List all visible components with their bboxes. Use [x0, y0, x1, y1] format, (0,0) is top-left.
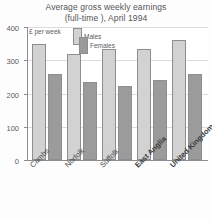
chart-title-line-2: (full-time ), April 1994	[0, 13, 212, 24]
ytick-mark-400: 400	[24, 27, 28, 28]
bar-females-cambs	[48, 74, 62, 160]
bar-males-suffolk	[102, 49, 116, 160]
ytick-mark-0: 0	[24, 160, 28, 161]
bar-females-suffolk	[118, 86, 132, 160]
bar-females-norfolk	[83, 82, 97, 160]
y-axis-unit-label: £ per week	[29, 28, 61, 35]
ytick-label-300: 300	[6, 57, 19, 66]
bar-males-united-kingdom	[172, 40, 186, 160]
bar-males-east-anglia	[137, 49, 151, 160]
ytick-label-100: 100	[6, 123, 19, 132]
bar-males-cambs	[32, 44, 46, 160]
bar-group-cambs	[32, 27, 64, 160]
ytick-label-200: 200	[6, 90, 19, 99]
plot-area: 400 300 200 100 0	[27, 27, 208, 160]
ytick-mark-200: 200	[24, 94, 28, 95]
chart-title-line-1: Average gross weekly earnings	[0, 2, 212, 13]
chart-title: Average gross weekly earnings (full-time…	[0, 2, 212, 24]
bar-chart-figure: Average gross weekly earnings (full-time…	[0, 0, 212, 220]
bar-males-norfolk	[67, 54, 81, 160]
legend-label-females: Females	[90, 42, 115, 49]
legend-entry-females: Females	[79, 37, 115, 54]
ytick-mark-300: 300	[24, 60, 28, 61]
legend-swatch-females-icon	[79, 37, 88, 54]
ytick-label-0: 0	[15, 157, 19, 166]
ytick-mark-100: 100	[24, 127, 28, 128]
ytick-label-400: 400	[6, 24, 19, 33]
